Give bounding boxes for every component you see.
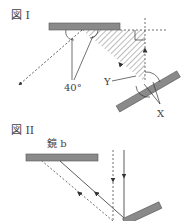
- dashed-arrow-diag: [79, 193, 84, 197]
- figure2: 鏡 b: [26, 137, 162, 221]
- pointer-y: [112, 76, 136, 81]
- solid-reflected-ray: [60, 161, 124, 218]
- mirror-top: [49, 23, 120, 30]
- ray-arrow-diag: [120, 64, 125, 70]
- label-x: X: [157, 108, 165, 119]
- figure2-title: 図 II: [11, 124, 34, 137]
- label-y: Y: [103, 76, 111, 87]
- mirror-lower: [123, 202, 162, 221]
- mirror-bottom-right: [116, 71, 180, 112]
- mirror-b-label: 鏡 b: [47, 137, 67, 149]
- angle-arc-lower-right: [145, 72, 160, 82]
- pointer-40-right: [74, 36, 93, 80]
- dashed-reflected-ray: [20, 30, 82, 84]
- mirror-b: [26, 154, 98, 161]
- figure1: 40° Y X: [20, 18, 180, 119]
- figure1-title: 図 I: [11, 9, 30, 22]
- angle-label-40: 40°: [64, 82, 82, 93]
- dashed-reflected-ray-2: [42, 161, 113, 221]
- diagram-canvas: 図 I 40° Y X 図 II: [0, 0, 187, 221]
